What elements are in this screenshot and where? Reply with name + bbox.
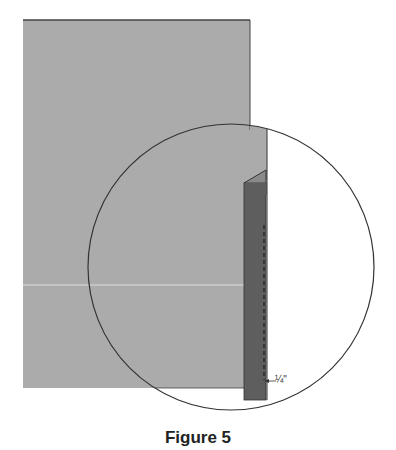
- figure-diagram: [0, 0, 396, 450]
- folded-hem: [244, 183, 266, 400]
- figure-caption: Figure 5: [0, 428, 396, 448]
- fabric-panel: [23, 20, 250, 388]
- measurement-label: ¼": [275, 374, 287, 385]
